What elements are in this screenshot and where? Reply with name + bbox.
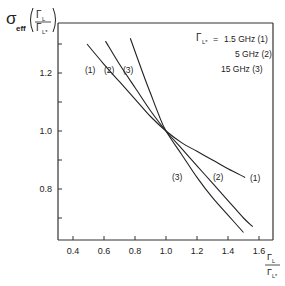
curve-label: (1) bbox=[250, 173, 261, 183]
curve-label: (3) bbox=[123, 65, 134, 75]
x-tick-label: 1.6 bbox=[253, 246, 266, 256]
y-tick-label: 1.0 bbox=[39, 126, 52, 136]
curve-label: (2) bbox=[104, 65, 115, 75]
svg-text:L*: L* bbox=[272, 273, 278, 279]
svg-text:eff: eff bbox=[16, 24, 26, 33]
svg-text:5 GHz (2): 5 GHz (2) bbox=[235, 49, 272, 59]
svg-text:15 GHz (3): 15 GHz (3) bbox=[221, 64, 263, 74]
chart: 0.40.60.81.01.21.41.6 0.81.01.2 (1)(2)(3… bbox=[0, 0, 285, 286]
y-axis-ticks: 0.81.01.2 bbox=[39, 44, 62, 218]
x-tick-label: 1.4 bbox=[222, 246, 235, 256]
curve-label: (3) bbox=[172, 172, 183, 182]
curve-label: (1) bbox=[85, 65, 96, 75]
y-tick-label: 1.2 bbox=[39, 68, 52, 78]
x-tick-label: 1.2 bbox=[191, 246, 204, 256]
x-tick-label: 1.0 bbox=[160, 246, 173, 256]
x-tick-label: 0.8 bbox=[129, 246, 142, 256]
curve-label: (2) bbox=[213, 172, 224, 182]
svg-text:L: L bbox=[42, 16, 46, 22]
svg-text:L*: L* bbox=[42, 29, 48, 35]
svg-text:1.5 GHz (1): 1.5 GHz (1) bbox=[224, 34, 268, 44]
x-tick-label: 0.6 bbox=[98, 246, 111, 256]
svg-text:=: = bbox=[213, 34, 218, 44]
x-axis-ticks: 0.40.60.81.01.21.41.6 bbox=[67, 236, 266, 256]
y-axis-label: σ eff Γ L Γ L* bbox=[6, 8, 56, 35]
x-axis-label: Γ L Γ L* bbox=[265, 252, 280, 279]
y-tick-label: 0.8 bbox=[39, 184, 52, 194]
curve-labels: (1)(2)(3)(3)(2)(1) bbox=[85, 65, 261, 183]
x-tick-label: 0.4 bbox=[67, 246, 80, 256]
svg-text:L*: L* bbox=[202, 39, 208, 45]
svg-text:L: L bbox=[272, 258, 275, 264]
legend: Γ L* = 1.5 GHz (1) 5 GHz (2) 15 GHz (3) bbox=[196, 32, 272, 74]
